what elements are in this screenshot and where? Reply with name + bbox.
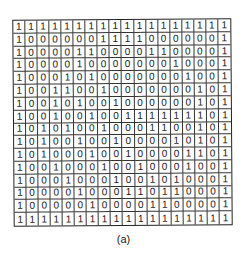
grid-cell: 0 — [62, 59, 74, 72]
grid-cell: 0 — [50, 72, 62, 85]
grid-cell: 0 — [171, 96, 183, 109]
grid-cell: 1 — [75, 187, 87, 200]
grid-cell: 1 — [50, 84, 62, 97]
grid-cell: 1 — [14, 72, 26, 85]
grid-cell: 1 — [110, 33, 122, 46]
binary-grid: 1111111111111111111000000111100000011000… — [12, 18, 232, 227]
grid-cell: 0 — [51, 174, 63, 187]
grid-cell: 1 — [158, 20, 170, 33]
grid-cell: 1 — [147, 173, 159, 186]
grid-cell: 0 — [146, 58, 158, 71]
grid-cell: 0 — [159, 173, 171, 186]
grid-cell: 1 — [219, 147, 231, 160]
grid-cell: 0 — [183, 135, 195, 148]
grid-cell: 0 — [171, 199, 183, 212]
grid-cell: 1 — [147, 212, 159, 225]
grid-cell: 1 — [171, 212, 183, 225]
grid-cell: 1 — [14, 59, 26, 72]
grid-cell: 0 — [98, 110, 110, 123]
grid-cell: 1 — [13, 46, 25, 59]
grid-cell: 1 — [134, 33, 146, 46]
grid-cell: 0 — [99, 199, 111, 212]
grid-cell: 0 — [75, 161, 87, 174]
grid-cell: 1 — [195, 109, 207, 122]
grid-cell: 0 — [110, 46, 122, 59]
grid-cell: 0 — [87, 161, 99, 174]
grid-cell: 1 — [14, 85, 26, 98]
grid-cell: 1 — [135, 161, 147, 174]
grid-cell: 0 — [74, 123, 86, 136]
grid-cell: 0 — [171, 122, 183, 135]
grid-cell: 1 — [14, 98, 26, 111]
grid-cell: 0 — [207, 109, 219, 122]
grid-cell: 0 — [26, 72, 38, 85]
grid-cell: 1 — [159, 186, 171, 199]
grid-cell: 0 — [134, 84, 146, 97]
grid-cell: 0 — [98, 97, 110, 110]
grid-cell: 1 — [50, 97, 62, 110]
grid-cell: 1 — [195, 148, 207, 161]
grid-cell: 1 — [170, 58, 182, 71]
grid-cell: 1 — [146, 20, 158, 33]
grid-cell: 0 — [62, 161, 74, 174]
grid-cell: 0 — [111, 161, 123, 174]
grid-cell: 0 — [86, 97, 98, 110]
grid-cell: 0 — [183, 199, 195, 212]
grid-cell: 0 — [110, 84, 122, 97]
grid-cell: 0 — [194, 32, 206, 45]
grid-cell: 0 — [26, 174, 38, 187]
grid-cell: 0 — [50, 59, 62, 72]
grid-cell: 1 — [15, 213, 27, 226]
grid-cell: 1 — [62, 72, 74, 85]
figure-caption: (a) — [0, 233, 247, 245]
grid-cell: 0 — [207, 186, 219, 199]
grid-cell: 0 — [99, 148, 111, 161]
grid-cell: 0 — [62, 148, 74, 161]
grid-cell: 1 — [99, 212, 111, 225]
grid-cell: 0 — [183, 173, 195, 186]
grid-cell: 0 — [183, 96, 195, 109]
grid-cell: 0 — [147, 148, 159, 161]
grid-cell: 1 — [86, 20, 98, 33]
grid-cell: 0 — [62, 97, 74, 110]
grid-cell: 0 — [51, 187, 63, 200]
grid-cell: 0 — [195, 186, 207, 199]
grid-cell: 1 — [62, 84, 74, 97]
grid-cell: 1 — [122, 33, 134, 46]
grid-cell: 0 — [111, 148, 123, 161]
grid-cell: 1 — [111, 174, 123, 187]
grid-cell: 0 — [86, 84, 98, 97]
grid-cell: 1 — [15, 200, 27, 213]
grid-cell: 0 — [123, 135, 135, 148]
grid-cell: 1 — [14, 187, 26, 200]
grid-cell: 0 — [135, 148, 147, 161]
grid-cell: 0 — [38, 72, 50, 85]
grid-cell: 1 — [14, 149, 26, 162]
grid-cell: 1 — [134, 110, 146, 123]
grid-cell: 0 — [123, 174, 135, 187]
grid-cell: 1 — [158, 45, 170, 58]
grid-cell: 1 — [171, 135, 183, 148]
grid-cell: 1 — [75, 212, 87, 225]
grid-cell: 0 — [134, 71, 146, 84]
grid-cell: 0 — [195, 199, 207, 212]
grid-cell: 1 — [63, 174, 75, 187]
grid-cell: 0 — [86, 33, 98, 46]
grid-cell: 0 — [111, 187, 123, 200]
grid-cell: 1 — [86, 71, 98, 84]
grid-cell: 0 — [206, 45, 218, 58]
grid-cell: 0 — [26, 46, 38, 59]
grid-cell: 1 — [182, 71, 194, 84]
grid-cell: 0 — [26, 110, 38, 123]
grid-cell: 1 — [195, 212, 207, 225]
grid-cell: 0 — [182, 45, 194, 58]
grid-cell: 1 — [207, 212, 219, 225]
grid-cell: 1 — [87, 200, 99, 213]
grid-cell: 0 — [26, 59, 38, 72]
grid-cell: 0 — [38, 85, 50, 98]
grid-cell: 1 — [123, 148, 135, 161]
grid-cell: 1 — [98, 20, 110, 33]
grid-cell: 1 — [74, 97, 86, 110]
grid-cell: 0 — [50, 136, 62, 149]
grid-cell: 1 — [110, 20, 122, 33]
